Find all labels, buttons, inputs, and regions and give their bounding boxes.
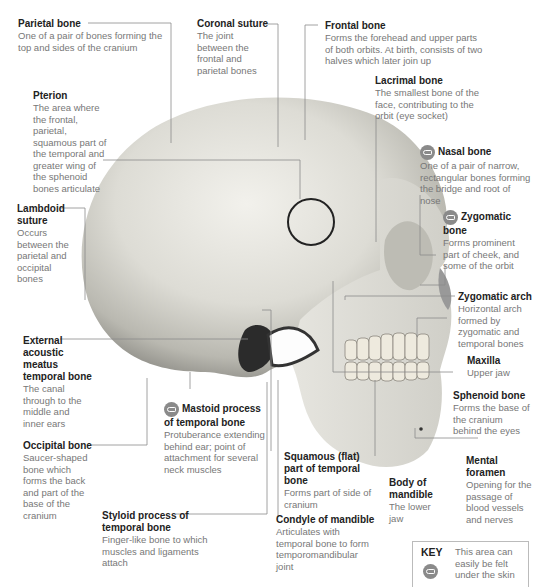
label-title: Frontal bone bbox=[325, 20, 485, 32]
label-description: Occurs between the parietal and occipita… bbox=[17, 227, 72, 285]
label-title: Squamous (flat) part of temporal bone bbox=[284, 451, 379, 487]
label-title: Coronal suture bbox=[197, 18, 269, 30]
palpable-hand-icon bbox=[423, 564, 438, 579]
label-title: Styloid process of temporal bone bbox=[102, 510, 227, 534]
label-title: Mental foramen bbox=[466, 455, 533, 479]
label-title: Parietal bone bbox=[18, 18, 168, 30]
label-description: Upper jaw bbox=[467, 367, 527, 379]
label-description: Forms part of side of cranium bbox=[284, 487, 379, 510]
label-lambdoid-suture: Lambdoid suture Occurs between the parie… bbox=[17, 203, 72, 285]
palpable-hand-icon bbox=[443, 210, 458, 225]
label-parietal-bone: Parietal bone One of a pair of bones for… bbox=[18, 18, 168, 53]
label-description: Forms prominent part of cheek, and some … bbox=[443, 237, 531, 272]
key-legend: KEY This area can easily be felt under t… bbox=[412, 541, 529, 587]
label-description: The lower jaw bbox=[389, 501, 444, 524]
label-sphenoid-bone: Sphenoid bone Forms the base of the cran… bbox=[453, 390, 533, 437]
label-description: The area where the frontal, parietal, sq… bbox=[33, 102, 111, 194]
key-title: KEY bbox=[421, 546, 443, 558]
label-description: The joint between the frontal and pariet… bbox=[197, 30, 269, 76]
label-zygomatic-bone: Zygomatic bone Forms prominent part of c… bbox=[443, 210, 531, 272]
label-title: Maxilla bbox=[467, 355, 527, 367]
label-title: Sphenoid bone bbox=[453, 390, 533, 402]
label-maxilla: Maxilla Upper jaw bbox=[467, 355, 527, 379]
label-squamous-part: Squamous (flat) part of temporal bone Fo… bbox=[284, 451, 379, 510]
label-pterion: Pterion The area where the frontal, pari… bbox=[33, 90, 111, 194]
label-description: Forms the forehead and upper parts of bo… bbox=[325, 32, 485, 67]
palpable-hand-icon bbox=[164, 402, 179, 417]
label-title: Zygomatic arch bbox=[458, 291, 533, 303]
teeth bbox=[345, 333, 429, 381]
label-mastoid-process: Mastoid process of temporal bone Protube… bbox=[164, 402, 269, 475]
key-description: This area can easily be felt under the s… bbox=[455, 546, 527, 581]
label-title: Condyle of mandible bbox=[276, 514, 376, 526]
label-description: Articulates with temporal bone to form t… bbox=[276, 526, 376, 572]
label-title: Body of mandible bbox=[389, 477, 444, 501]
label-lacrimal-bone: Lacrimal bone The smallest bone of the f… bbox=[375, 75, 490, 122]
label-description: Finger-like bone to which muscles and li… bbox=[102, 534, 227, 569]
label-description: One of a pair of narrow, rectangular bon… bbox=[420, 160, 532, 206]
label-external-acoustic-meatus: External acoustic meatus temporal bone T… bbox=[23, 335, 93, 429]
label-occipital-bone: Occipital bone Saucer-shaped bone which … bbox=[23, 440, 95, 521]
label-coronal-suture: Coronal suture The joint between the fro… bbox=[197, 18, 269, 76]
label-description: Horizontal arch formed by zygomatic and … bbox=[458, 303, 533, 349]
label-nasal-bone: Nasal bone One of a pair of narrow, rect… bbox=[420, 145, 532, 206]
label-mental-foramen: Mental foramen Opening for the passage o… bbox=[466, 455, 533, 525]
palpable-hand-icon bbox=[420, 145, 435, 160]
label-title: External acoustic meatus temporal bone bbox=[23, 335, 93, 383]
label-description: The smallest bone of the face, contribut… bbox=[375, 87, 490, 122]
label-body-of-mandible: Body of mandible The lower jaw bbox=[389, 477, 444, 524]
label-condyle-of-mandible: Condyle of mandible Articulates with tem… bbox=[276, 514, 376, 572]
label-zygomatic-arch: Zygomatic arch Horizontal arch formed by… bbox=[458, 291, 533, 349]
label-title: Lacrimal bone bbox=[375, 75, 490, 87]
label-description: Opening for the passage of blood vessels… bbox=[466, 479, 533, 525]
label-title: Pterion bbox=[33, 90, 111, 102]
label-description: One of a pair of bones forming the top a… bbox=[18, 30, 168, 53]
label-frontal-bone: Frontal bone Forms the forehead and uppe… bbox=[325, 20, 485, 67]
label-styloid-process: Styloid process of temporal bone Finger-… bbox=[102, 510, 227, 569]
label-description: Saucer-shaped bone which forms the back … bbox=[23, 452, 95, 521]
label-description: Forms the base of the cranium behind the… bbox=[453, 402, 533, 437]
label-description: Protuberance extending behind ear; point… bbox=[164, 429, 269, 475]
label-title: Nasal bone bbox=[438, 146, 491, 157]
label-description: The canal through to the middle and inne… bbox=[23, 383, 93, 429]
label-title: Occipital bone bbox=[23, 440, 95, 452]
label-title: Lambdoid suture bbox=[17, 203, 72, 227]
